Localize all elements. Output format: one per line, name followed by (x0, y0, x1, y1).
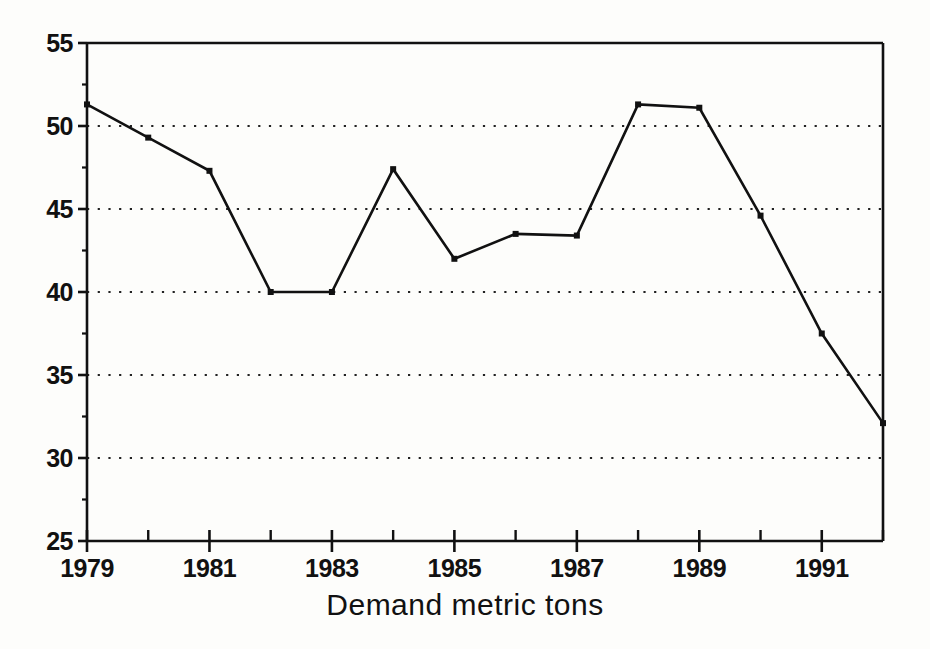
y-axis-tick-label: 50 (0, 112, 73, 141)
gridlines (87, 126, 883, 458)
x-axis-tick-label: 1991 (795, 554, 849, 583)
y-axis-tick-label: 55 (0, 29, 73, 58)
y-axis-tick-label: 35 (0, 361, 73, 390)
y-axis-tick-label: 30 (0, 444, 73, 473)
tick-marks (78, 43, 883, 552)
x-axis-tick-label: 1989 (672, 554, 726, 583)
data-point-markers (84, 101, 886, 426)
y-axis-tick-label: 45 (0, 195, 73, 224)
line-chart (0, 0, 930, 649)
chart-page: 25303540455055 1979198119831985198719891… (0, 0, 930, 649)
x-axis-tick-label: 1981 (183, 554, 237, 583)
y-axis-tick-label: 40 (0, 278, 73, 307)
y-axis-tick-label: 25 (0, 527, 73, 556)
x-axis-tick-label: 1983 (305, 554, 359, 583)
x-axis-tick-label: 1985 (428, 554, 482, 583)
x-axis-tick-label: 1979 (60, 554, 114, 583)
x-axis-tick-label: 1987 (550, 554, 604, 583)
x-axis-title: Demand metric tons (0, 588, 930, 622)
